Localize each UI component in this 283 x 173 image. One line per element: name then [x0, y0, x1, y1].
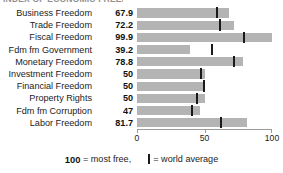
world-average-marker [203, 80, 205, 91]
bar-track [137, 44, 272, 56]
x-axis: 050100 [137, 129, 272, 149]
category-label: Trade Freedom [30, 19, 92, 31]
chart-title-clipped: INDEX OF ECONOMIC FREEDOM [3, 0, 123, 3]
value-bar [137, 118, 247, 127]
category-label: Fdm fm Corruption [16, 105, 92, 117]
category-value: 50 [107, 68, 133, 80]
world-average-marker [243, 32, 245, 43]
world-average-marker [220, 117, 222, 128]
bar-track [137, 117, 272, 129]
axis-tick-label: 0 [125, 133, 149, 143]
bar-track [137, 19, 272, 31]
category-label: Fiscal Freedom [29, 31, 92, 43]
value-bar [137, 57, 243, 66]
economic-freedom-chart: INDEX OF ECONOMIC FREEDOM Business Freed… [0, 0, 283, 173]
category-value: 50 [107, 92, 133, 104]
value-bar [137, 45, 190, 54]
world-average-marker [233, 56, 235, 67]
value-bar [137, 82, 205, 91]
category-label: Financial Freedom [17, 80, 92, 92]
legend-most-free-number: 100 [65, 154, 81, 165]
legend-most-free-text: = most free, [83, 154, 131, 164]
category-value: 81.7 [107, 117, 133, 129]
category-label: Monetary Freedom [15, 56, 92, 68]
bar-track [137, 68, 272, 80]
value-bar [137, 94, 205, 103]
category-label: Property Rights [29, 92, 92, 104]
category-label: Labor Freedom [30, 117, 92, 129]
plot-area [137, 7, 272, 129]
value-bar [137, 69, 205, 78]
legend-world-average-text: = world average [153, 154, 218, 164]
bar-track [137, 92, 272, 104]
world-average-marker [196, 93, 198, 104]
axis-tick-label: 50 [193, 133, 217, 143]
bar-track [137, 80, 272, 92]
axis-tick-label: 100 [260, 133, 283, 143]
bar-track [137, 56, 272, 68]
category-value: 99.9 [107, 31, 133, 43]
value-bar [137, 8, 229, 17]
world-average-marker [200, 68, 202, 79]
category-value: 78.8 [107, 56, 133, 68]
axis-tick [271, 129, 272, 133]
category-value: 39.2 [107, 44, 133, 56]
category-value: 67.9 [107, 7, 133, 19]
axis-tick [137, 129, 138, 133]
vertical-bar-icon [148, 154, 150, 164]
bar-track [137, 105, 272, 117]
world-average-marker [211, 44, 213, 55]
chart-legend: 100 = most free, = world average [0, 151, 283, 167]
bar-track [137, 31, 272, 43]
category-label: Fdm fm Government [9, 44, 92, 56]
world-average-marker [191, 105, 193, 116]
bar-track [137, 7, 272, 19]
value-bar [137, 33, 272, 42]
world-average-marker [216, 7, 218, 18]
axis-tick [205, 129, 206, 133]
category-label: Investment Freedom [9, 68, 92, 80]
category-label: Business Freedom [16, 7, 92, 19]
category-value: 47 [107, 105, 133, 117]
category-value: 50 [107, 80, 133, 92]
world-average-marker [219, 19, 221, 30]
category-value: 72.2 [107, 19, 133, 31]
